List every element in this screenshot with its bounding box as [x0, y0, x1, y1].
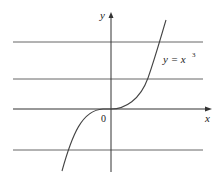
y-axis-label: y [99, 9, 105, 21]
cubic-graph: y x 0 y = x 3 [0, 0, 214, 182]
y-axis-arrow-icon [109, 12, 114, 18]
x-axis-arrow-icon [205, 107, 212, 112]
cubic-curve [62, 20, 166, 171]
curve-label-exponent: 3 [192, 51, 196, 59]
x-axis-label: x [204, 112, 210, 124]
origin-label: 0 [101, 113, 106, 124]
curve-label: y = x [162, 53, 186, 65]
